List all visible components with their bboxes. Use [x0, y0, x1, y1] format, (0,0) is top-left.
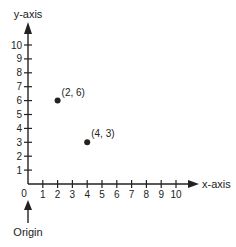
y-tick-label: 3	[16, 137, 22, 148]
x-tick-label: 9	[158, 189, 164, 200]
x-axis-label: x-axis	[202, 178, 231, 190]
y-axis-arrow-icon	[24, 22, 32, 34]
origin-annotation: Origin	[13, 226, 42, 238]
origin-zero-label: 0	[21, 188, 27, 199]
y-tick-label: 9	[16, 53, 22, 64]
ticks: 1234567891012345678910	[11, 40, 182, 201]
y-tick-label: 1	[16, 165, 22, 176]
x-tick-label: 5	[99, 189, 105, 200]
y-tick-label: 8	[16, 67, 22, 78]
x-tick-label: 6	[114, 189, 120, 200]
y-axis-label: y-axis	[14, 8, 43, 20]
y-tick-label: 10	[11, 40, 23, 51]
y-tick-label: 7	[16, 81, 22, 92]
y-tick-label: 5	[16, 109, 22, 120]
x-tick-label: 8	[144, 189, 150, 200]
x-tick-label: 1	[40, 189, 46, 200]
y-tick-label: 4	[16, 123, 22, 134]
points: (2, 6)(4, 3)	[55, 87, 115, 146]
x-tick-label: 2	[55, 189, 61, 200]
data-point	[55, 98, 61, 104]
y-tick-label: 6	[16, 95, 22, 106]
point-label: (4, 3)	[91, 128, 114, 139]
data-point	[84, 139, 90, 145]
x-tick-label: 7	[129, 189, 135, 200]
x-axis-arrow-icon	[188, 180, 199, 188]
x-tick-label: 10	[170, 189, 182, 200]
origin-arrow-icon	[24, 200, 32, 210]
x-tick-label: 4	[84, 189, 90, 200]
x-tick-label: 3	[70, 189, 76, 200]
point-label: (2, 6)	[62, 87, 85, 98]
coordinate-plane: 1234567891012345678910 (2, 6)(4, 3) y-ax…	[0, 0, 236, 247]
y-tick-label: 2	[16, 151, 22, 162]
